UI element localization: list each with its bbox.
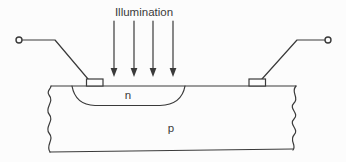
illumination-label: Illumination bbox=[115, 6, 173, 18]
illumination-arrowhead-icon bbox=[170, 68, 177, 77]
illumination-arrowhead-icon bbox=[111, 68, 118, 77]
body-left-torn-edge bbox=[48, 86, 51, 152]
left-contact-pad bbox=[87, 79, 104, 86]
illumination-arrowhead-icon bbox=[150, 68, 157, 77]
right-contact-pad bbox=[249, 79, 266, 86]
diagram-canvas: Illumination bbox=[0, 0, 346, 162]
body-bottom-edge bbox=[50, 149, 293, 152]
n-region-label: n bbox=[125, 89, 131, 101]
right-terminal-icon bbox=[325, 37, 331, 43]
left-wire bbox=[23, 40, 89, 79]
illumination-arrowhead-icon bbox=[131, 68, 138, 77]
p-region-label: p bbox=[168, 122, 174, 134]
body-right-torn-edge bbox=[292, 86, 296, 150]
right-wire bbox=[262, 40, 325, 79]
left-electrode bbox=[16, 37, 103, 86]
illumination-arrows-group bbox=[111, 21, 177, 77]
photodiode-diagram: Illumination bbox=[0, 0, 346, 162]
left-terminal-icon bbox=[16, 37, 22, 43]
right-electrode bbox=[249, 37, 331, 86]
